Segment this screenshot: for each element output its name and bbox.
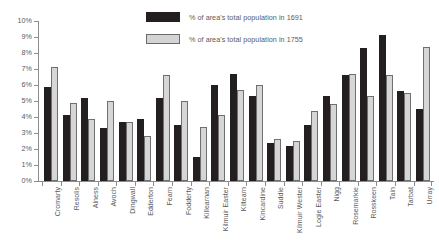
x-axis-label-alness: Alness — [79, 187, 98, 247]
bar-group — [209, 21, 228, 181]
x-axis-label-logie-easter: Logie Easter — [302, 187, 321, 247]
x-axis-label-edderton: Edderton — [135, 187, 154, 247]
bar-1691 — [100, 128, 107, 181]
bar-1691 — [379, 35, 386, 181]
bars-container — [39, 21, 434, 181]
y-tick-label: 5% — [22, 96, 32, 105]
bar-1755 — [349, 74, 356, 181]
bar-1691 — [44, 87, 51, 181]
x-axis-label-fodderty: Fodderty — [172, 187, 191, 247]
x-axis-label-rosskeen: Rosskeen — [358, 187, 377, 247]
bar-1691 — [137, 119, 144, 181]
x-tick-mark — [376, 182, 395, 186]
bar-1755 — [107, 101, 114, 181]
x-axis-label-fearn: Fearn — [153, 187, 172, 247]
x-axis-label-kilmuir-wester: Kilmuir Wester — [284, 187, 303, 247]
x-tick-mark — [172, 182, 191, 186]
bar-1755 — [163, 75, 170, 181]
bar-1691 — [286, 146, 293, 181]
bar-group — [79, 21, 98, 181]
bar-1755 — [404, 93, 411, 181]
y-tick-label: 7% — [22, 64, 32, 73]
y-axis: 10%9%8%7%6%5%4%3%2%1%0% — [0, 21, 38, 182]
y-tick-label: 0% — [22, 176, 32, 185]
x-axis-label-resolis: Resolis — [61, 187, 80, 247]
x-tick-mark — [209, 182, 228, 186]
x-axis-label-kiltearn: Kiltearn — [228, 187, 247, 247]
y-tick-label: 2% — [22, 144, 32, 153]
x-tick-mark — [414, 182, 433, 186]
x-tick-mark — [265, 182, 284, 186]
bar-1691 — [174, 125, 181, 181]
x-tick-mark — [98, 182, 117, 186]
y-tick-label: 10% — [18, 16, 32, 25]
y-tick-label: 4% — [22, 112, 32, 121]
bar-1691 — [342, 75, 349, 181]
bar-group — [61, 21, 80, 181]
x-axis-label-text: Urray — [426, 187, 433, 204]
x-tick-mark — [153, 182, 172, 186]
bar-group — [191, 21, 210, 181]
bar-1755 — [256, 85, 263, 181]
x-axis-label-dingwall: Dingwall — [116, 187, 135, 247]
x-axis-label-avoch: Avoch — [98, 187, 117, 247]
bar-1691 — [156, 98, 163, 181]
x-axis-label-killearnan: Killearnan — [191, 187, 210, 247]
bar-group — [153, 21, 172, 181]
bar-group — [265, 21, 284, 181]
x-tick-mark — [395, 182, 414, 186]
bar-1755 — [386, 75, 393, 181]
bar-1755 — [237, 90, 244, 181]
bar-1755 — [330, 104, 337, 181]
x-tick-mark — [358, 182, 377, 186]
x-axis-label-suddie: Suddie — [265, 187, 284, 247]
x-tick-mark — [42, 182, 61, 186]
bar-1755 — [423, 47, 430, 181]
bar-1691 — [119, 122, 126, 181]
bar-1691 — [267, 143, 274, 181]
bar-1691 — [193, 157, 200, 181]
bar-group — [284, 21, 303, 181]
x-tick-mark — [284, 182, 303, 186]
bar-1691 — [230, 74, 237, 181]
bar-1755 — [51, 67, 58, 181]
x-tick-mark — [302, 182, 321, 186]
y-tick-label: 6% — [22, 80, 32, 89]
bar-1691 — [81, 98, 88, 181]
x-axis-label-kilmuir-easter: Kilmuir Easter — [209, 187, 228, 247]
bar-1691 — [416, 109, 423, 181]
y-tick-label: 1% — [22, 160, 32, 169]
x-tick-mark — [116, 182, 135, 186]
bar-1691 — [249, 96, 256, 181]
x-tick-mark — [191, 182, 210, 186]
y-tick-label: 9% — [22, 32, 32, 41]
bar-1755 — [311, 111, 318, 181]
x-tick-mark — [246, 182, 265, 186]
x-axis-label-urray: Urray — [414, 187, 433, 247]
bar-1691 — [63, 115, 70, 181]
bar-group — [376, 21, 395, 181]
bar-1755 — [367, 96, 374, 181]
bar-group — [42, 21, 61, 181]
x-axis-label-tain: Tain — [376, 187, 395, 247]
bar-group — [135, 21, 154, 181]
bar-1691 — [304, 125, 311, 181]
bar-1691 — [397, 91, 404, 181]
bar-group — [339, 21, 358, 181]
bar-group — [321, 21, 340, 181]
bar-group — [116, 21, 135, 181]
bar-1691 — [211, 85, 218, 181]
x-tick-mark — [339, 182, 358, 186]
bar-chart: % of area's total population in 1691 % o… — [0, 0, 439, 248]
bar-1755 — [200, 127, 207, 181]
bar-group — [172, 21, 191, 181]
bar-1755 — [293, 141, 300, 181]
y-tick-label: 8% — [22, 48, 32, 57]
bar-group — [302, 21, 321, 181]
bar-1691 — [360, 48, 367, 181]
x-axis-label-rosemarkie: Rosemarkie — [339, 187, 358, 247]
x-axis-ticks — [39, 182, 434, 186]
x-tick-mark — [135, 182, 154, 186]
bar-1755 — [88, 119, 95, 181]
x-axis-label-cromarty: Cromarty — [42, 187, 61, 247]
